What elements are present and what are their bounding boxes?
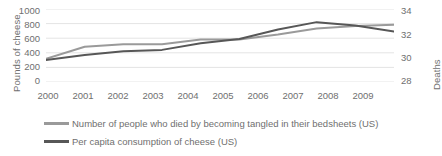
legend-swatch-cheese-consumption	[44, 140, 69, 143]
right-tick-30: 30	[401, 53, 427, 63]
x-tick-2009: 2009	[343, 91, 383, 101]
right-tick-28: 28	[401, 76, 427, 86]
left-tick-400: 400	[10, 48, 40, 58]
left-tick-600: 600	[10, 34, 40, 44]
series-lines	[46, 22, 394, 60]
right-tick-32: 32	[401, 30, 427, 40]
x-tick-2003: 2003	[133, 91, 173, 101]
legend-item-bedsheet-deaths: Number of people who died by becoming ta…	[44, 118, 378, 129]
x-tick-2005: 2005	[203, 91, 243, 101]
x-tick-2002: 2002	[98, 91, 138, 101]
left-tick-800: 800	[10, 20, 40, 30]
x-tick-2006: 2006	[238, 91, 278, 101]
left-tick-0: 0	[10, 76, 40, 86]
right-axis-title: Deaths	[431, 59, 442, 90]
x-tick-2007: 2007	[273, 91, 313, 101]
left-tick-1000: 1000	[10, 6, 40, 16]
x-tick-2001: 2001	[63, 91, 103, 101]
legend-label-bedsheet-deaths: Number of people who died by becoming ta…	[72, 118, 378, 129]
legend-swatch-bedsheet-deaths	[44, 122, 69, 125]
x-tick-2008: 2008	[308, 91, 348, 101]
x-tick-2004: 2004	[168, 91, 208, 101]
plot-svg	[46, 9, 394, 82]
plot-area	[46, 9, 394, 82]
left-tick-200: 200	[10, 62, 40, 72]
legend-item-cheese-consumption: Per capita consumption of cheese (US)	[44, 136, 237, 147]
x-tick-2000: 2000	[28, 91, 68, 101]
right-tick-34: 34	[401, 6, 427, 16]
legend-label-cheese-consumption: Per capita consumption of cheese (US)	[72, 136, 237, 147]
